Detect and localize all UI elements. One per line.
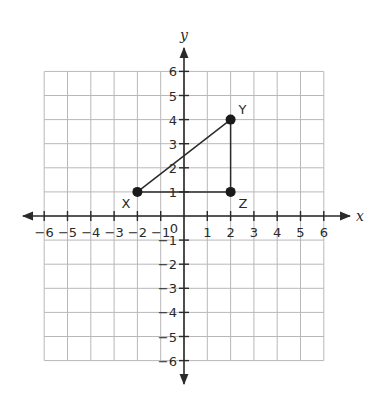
- x-tick-label: −2: [128, 225, 147, 240]
- y-tick-label: −6: [158, 354, 177, 369]
- y-axis-label: y: [179, 27, 189, 43]
- x-tick-label: −6: [35, 225, 54, 240]
- axes: xy: [23, 27, 364, 384]
- y-tick-label: 3: [169, 137, 177, 152]
- origin-label: 0: [170, 221, 178, 236]
- x-tick-label: 2: [226, 225, 234, 240]
- x-tick-label: 4: [273, 225, 281, 240]
- point-label-x: X: [121, 196, 130, 211]
- x-tick-label: −5: [58, 225, 77, 240]
- y-tick-label: 4: [169, 113, 177, 128]
- y-tick-label: 6: [169, 64, 177, 79]
- x-tick-label: 1: [203, 225, 211, 240]
- y-tick-label: −2: [158, 257, 177, 272]
- x-tick-label: 6: [320, 225, 328, 240]
- y-tick-label: −3: [158, 281, 177, 296]
- point-label-z: Z: [239, 196, 248, 211]
- point-x: [132, 187, 142, 197]
- point-label-y: Y: [238, 102, 247, 117]
- point-z: [226, 187, 236, 197]
- y-tick-label: −5: [158, 330, 177, 345]
- x-axis-label: x: [356, 208, 364, 224]
- x-tick-label: 5: [296, 225, 304, 240]
- x-tick-label: −3: [105, 225, 124, 240]
- x-tick-label: 3: [250, 225, 258, 240]
- coordinate-plane: xy −6−5−4−3−2−1123456−6−5−4−3−2−11234560…: [0, 0, 379, 409]
- point-y: [226, 115, 236, 125]
- y-tick-label: −4: [158, 305, 177, 320]
- y-tick-label: 5: [169, 89, 177, 104]
- x-tick-label: −4: [81, 225, 100, 240]
